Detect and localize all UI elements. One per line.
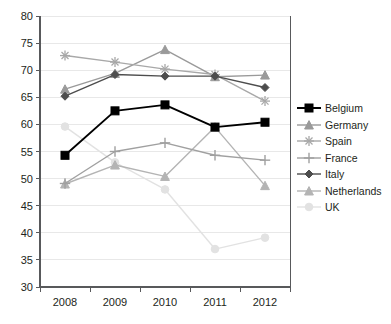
data-point-square [211,123,219,131]
x-axis-tick-label: 2010 [153,296,177,308]
series-belgium [61,101,269,159]
data-point-square [111,107,119,115]
y-axis-tick-label: 30 [21,281,33,293]
series-netherlands [61,123,270,190]
y-axis-tick-label: 65 [21,91,33,103]
legend-key-france [296,150,322,166]
legend-item-france[interactable]: France [296,150,391,167]
legend-label-germany: Germany [325,120,368,131]
y-axis-tick-label: 75 [21,37,33,49]
data-point-diamond [161,72,169,80]
x-axis-tick-label: 2009 [103,296,127,308]
legend-key-spain [296,133,322,149]
data-point-circle [211,245,219,253]
legend-label-italy: Italy [325,169,344,180]
data-point-square [261,118,269,126]
data-point-square [161,101,169,109]
legend-item-germany[interactable]: Germany [296,117,391,134]
legend-label-france: France [325,153,358,164]
data-point-triangle [161,45,170,53]
legend-item-netherlands[interactable]: Netherlands [296,183,391,200]
data-point-square [305,104,313,112]
y-axis-tick-label: 50 [21,173,33,185]
legend-label-belgium: Belgium [325,103,363,114]
series-italy [61,71,269,101]
legend-key-germany [296,117,322,133]
legend-item-italy[interactable]: Italy [296,166,391,183]
chart-legend: Belgium Germany Spain France Italy Nethe… [296,100,391,216]
legend-key-italy [296,166,322,182]
legend-item-uk[interactable]: UK [296,199,391,216]
data-point-circle [261,234,269,242]
data-point-circle [305,203,313,211]
y-axis-tick-label: 60 [21,118,33,130]
y-axis-tick-label: 70 [21,64,33,76]
line-chart: 3035404550556065707580200820092010201120… [0,0,391,324]
y-axis-tick-label: 40 [21,227,33,239]
legend-label-spain: Spain [325,136,352,147]
legend-item-belgium[interactable]: Belgium [296,100,391,117]
x-axis-tick-label: 2008 [53,296,77,308]
y-axis-tick-label: 80 [21,10,33,22]
legend-item-spain[interactable]: Spain [296,133,391,150]
data-point-circle [161,186,169,194]
x-axis-tick-label: 2012 [253,296,277,308]
data-point-square [61,151,69,159]
y-axis-tick-label: 35 [21,254,33,266]
legend-key-netherlands [296,183,322,199]
legend-label-uk: UK [325,202,340,213]
legend-label-netherlands: Netherlands [325,186,382,197]
x-axis-tick-label: 2011 [203,296,227,308]
legend-key-belgium [296,100,322,116]
y-axis-tick-label: 45 [21,200,33,212]
data-point-diamond [261,84,269,92]
legend-key-uk [296,199,322,215]
data-point-circle [61,123,69,131]
y-axis-tick-label: 55 [21,146,33,158]
data-point-diamond [305,170,313,178]
